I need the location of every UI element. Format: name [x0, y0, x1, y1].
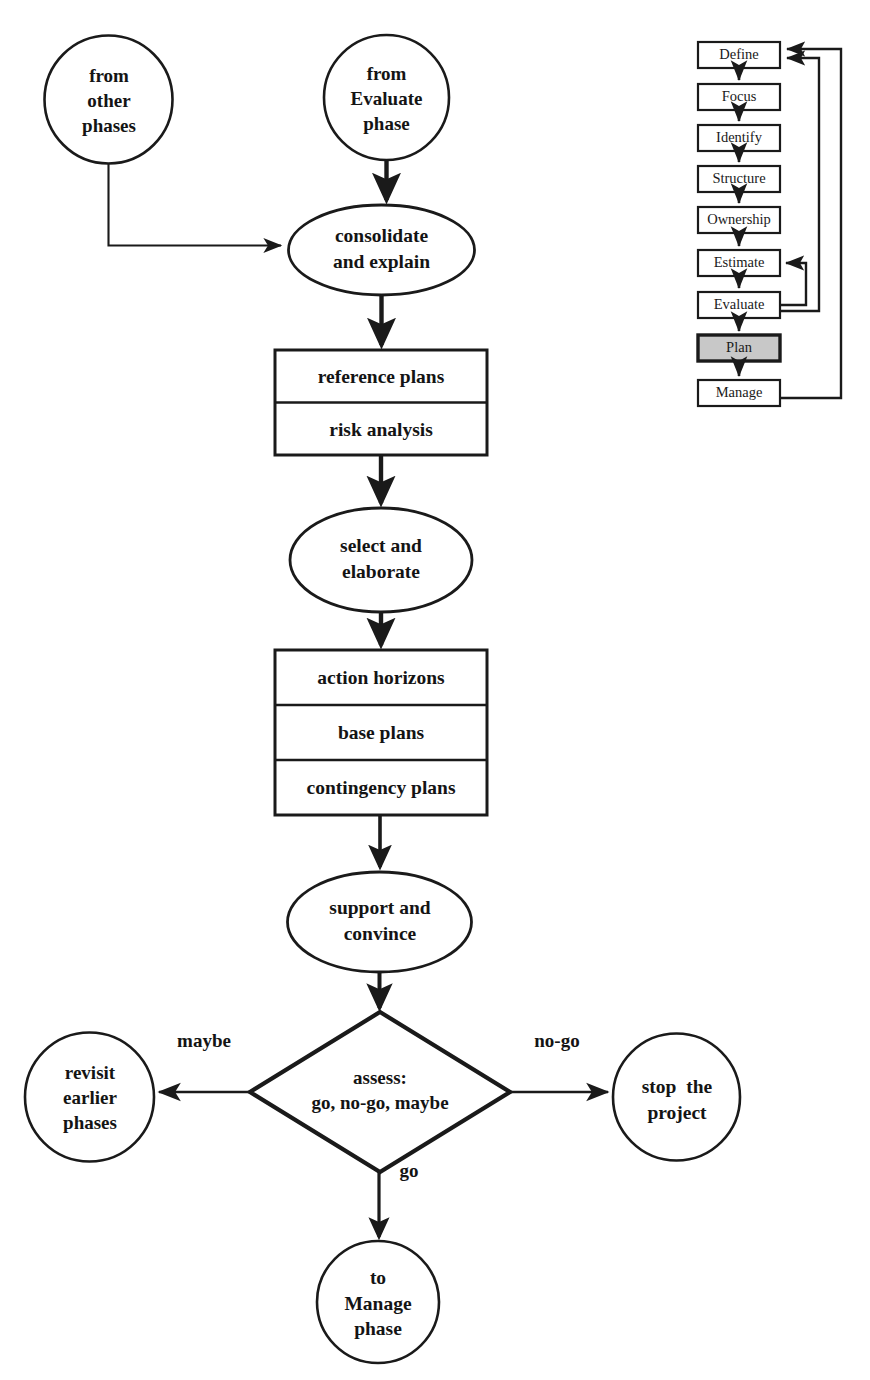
- node-revisit-earlier-phases: [25, 1033, 154, 1162]
- mini-label-manage: Manage: [698, 384, 780, 401]
- flowchart-canvas: [0, 0, 870, 1380]
- node-support-and-convince: [288, 872, 472, 972]
- node-consolidate-and-explain: [289, 205, 475, 295]
- edge-label-no-go: no-go: [512, 1030, 602, 1052]
- node-to-manage-phase: [317, 1241, 439, 1363]
- edge-label-maybe: maybe: [158, 1030, 250, 1052]
- node-select-and-elaborate: [290, 508, 472, 612]
- node-from-other-phases: [45, 36, 173, 164]
- node-assess-decision: [250, 1012, 510, 1172]
- mini-label-identify: Identify: [698, 129, 780, 146]
- plans-box-1: [275, 350, 487, 455]
- mini-label-plan: Plan: [698, 339, 780, 356]
- mini-label-focus: Focus: [698, 88, 780, 105]
- edge-other-phases-to-consolidate: [109, 164, 282, 246]
- mini-label-structure: Structure: [698, 170, 780, 187]
- mini-label-ownership: Ownership: [696, 211, 782, 228]
- mini-label-define: Define: [698, 46, 780, 63]
- mini-label-estimate: Estimate: [698, 254, 780, 271]
- mini-edge-evaluate-to-define: [780, 58, 819, 311]
- mini-label-evaluate: Evaluate: [698, 296, 780, 313]
- node-from-evaluate-phase: [324, 35, 449, 160]
- mini-edge-manage-to-define: [780, 49, 841, 398]
- node-stop-the-project: [613, 1034, 740, 1161]
- edge-label-go: go: [386, 1160, 432, 1182]
- plans-box-2: [275, 650, 487, 815]
- mini-edge-evaluate-to-estimate: [780, 263, 806, 305]
